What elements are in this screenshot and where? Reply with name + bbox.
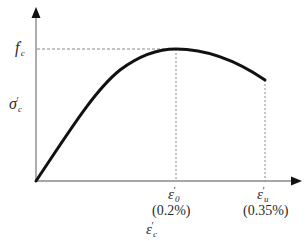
x-tick-value-peak-strain: (0.2%) bbox=[152, 204, 191, 218]
x-axis-sub: c bbox=[153, 229, 157, 239]
x-axis-label: ε′c bbox=[146, 222, 157, 237]
x-tick-label-peak-strain: ε′0 bbox=[168, 187, 180, 202]
stress-strain-curve bbox=[36, 49, 265, 181]
y-axis-arrow-icon bbox=[32, 7, 41, 18]
y-axis-label: σ′c bbox=[9, 96, 22, 112]
x-tick-label-ultimate-strain: ε′u bbox=[257, 187, 269, 202]
y-tick-sub: c bbox=[21, 48, 25, 58]
y-tick-label-peak-stress: f′c bbox=[15, 40, 25, 56]
x-tick-value-ultimate-strain: (0.35%) bbox=[243, 204, 289, 218]
x-axis-arrow-icon bbox=[291, 177, 302, 186]
y-axis-sub: c bbox=[18, 104, 22, 114]
